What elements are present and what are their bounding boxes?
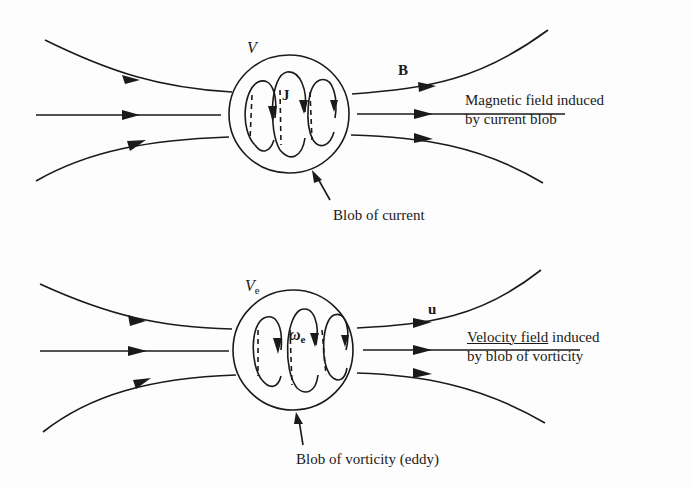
u-line-out-lower — [357, 373, 545, 423]
arrow-icon — [310, 333, 319, 347]
omega-subscript: e — [301, 333, 306, 345]
current-loop-2 — [272, 72, 305, 150]
caption-line: by blob of vorticity — [467, 347, 599, 366]
arrow-icon — [413, 318, 432, 328]
volume-label-ve: Ve — [245, 278, 260, 296]
velocity-field-caption: Velocity field induced by blob of vortic… — [467, 328, 599, 366]
omega-symbol: ω — [289, 326, 301, 343]
b-line-out-lower — [351, 135, 543, 183]
caption-text: induced — [548, 329, 599, 345]
arrow-icon — [312, 170, 322, 183]
magnetic-field-caption: Magnetic field induced by current blob — [465, 91, 604, 129]
arrow-icon — [133, 378, 151, 389]
arrow-icon — [413, 368, 432, 378]
vorticity-label-omega-e: ωe — [289, 327, 305, 345]
b-line-in-upper — [45, 40, 232, 92]
caption-line: by current blob — [465, 110, 604, 129]
current-density-label-j: J — [282, 88, 290, 103]
magnetic-field-label-b: B — [398, 63, 408, 78]
blob-of-vorticity-label: Blob of vorticity (eddy) — [296, 450, 439, 469]
velocity-field-label-u: u — [428, 302, 436, 317]
u-line-out-upper — [357, 270, 541, 328]
arrow-icon — [128, 346, 147, 356]
underlined-text: Velocity field — [467, 329, 548, 345]
figure-canvas: V J B Magnetic field induced by current … — [0, 0, 693, 488]
b-line-out-upper — [352, 30, 548, 94]
arrow-icon — [413, 345, 432, 355]
caption-line: Magnetic field induced — [465, 91, 604, 110]
blob-of-current-label: Blob of current — [333, 206, 425, 225]
vorticity-blob-circle — [233, 290, 353, 410]
volume-label-v: V — [247, 40, 257, 56]
arrow-icon — [299, 100, 308, 114]
volume-symbol: V — [245, 277, 255, 294]
arrow-icon — [414, 109, 433, 119]
arrow-icon — [294, 412, 303, 424]
field-lines-diagram — [0, 0, 693, 488]
volume-subscript: e — [255, 284, 260, 296]
vortex-loop-3 — [324, 314, 348, 375]
current-blob-circle — [229, 55, 349, 173]
arrow-icon — [122, 110, 140, 120]
caption-line: Velocity field induced — [467, 328, 599, 347]
arrow-icon — [128, 315, 146, 326]
